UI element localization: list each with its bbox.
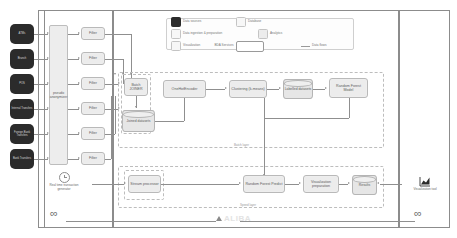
random-forest-model-box[interactable]: Random Forest Model bbox=[329, 78, 368, 98]
arrow-stream-processor bbox=[124, 182, 126, 184]
filter-box-5[interactable]: Filter bbox=[81, 152, 105, 165]
legend-swatch-data-sources bbox=[171, 17, 181, 27]
source-node-pos[interactable]: POS bbox=[10, 74, 34, 94]
filter-label-1: Filter bbox=[89, 56, 97, 60]
connector-joined-up-v bbox=[184, 98, 185, 121]
legend-label-analytics: Analytics bbox=[270, 32, 282, 36]
connector-predict-viz bbox=[285, 184, 299, 185]
connector-source-5 bbox=[34, 159, 48, 160]
filter-box-2[interactable]: Filter bbox=[81, 77, 105, 90]
arrow-visualization-preparation bbox=[299, 182, 301, 184]
source-node-internal-transfers[interactable]: Internal Transfers bbox=[10, 99, 34, 119]
legend: Data sources Database Data ingestion & p… bbox=[166, 18, 354, 50]
connector-f1-h bbox=[105, 59, 123, 60]
source-label-atms: ATMs bbox=[19, 32, 26, 35]
filter-box-0[interactable]: Filter bbox=[81, 27, 105, 40]
connector-f0-h bbox=[105, 34, 131, 35]
legend-label-visualization: Visualization bbox=[183, 44, 200, 48]
arrow-filter-2 bbox=[78, 82, 80, 84]
clustering-label: Clustering (k-means) bbox=[231, 87, 264, 91]
legend-label-database: Database bbox=[248, 20, 261, 24]
connector-f3-h bbox=[105, 109, 119, 110]
source-label-internal-transfers: Internal Transfers bbox=[12, 107, 33, 110]
labelled-datasets-label: Labelled datasets bbox=[285, 87, 312, 91]
batch-joiner-box[interactable]: Batch JOINER bbox=[124, 78, 148, 96]
arrow-results bbox=[348, 182, 350, 184]
filter-box-4[interactable]: Filter bbox=[81, 127, 105, 140]
real-time-generator[interactable]: Real time transaction generator bbox=[48, 172, 80, 212]
filter-box-3[interactable]: Filter bbox=[81, 102, 105, 115]
results-cylinder[interactable]: Results bbox=[352, 175, 377, 195]
legend-item-database: Database bbox=[236, 17, 298, 27]
joined-datasets-cylinder[interactable]: Joined datasets bbox=[122, 110, 155, 132]
connector-model-predict-v bbox=[264, 98, 265, 176]
arrow-results-back bbox=[377, 182, 379, 184]
source-node-bank-transfers[interactable]: Bank Transfers bbox=[10, 149, 34, 169]
labelled-datasets-cylinder[interactable]: Labelled datasets bbox=[283, 79, 313, 99]
connector-source-2 bbox=[34, 84, 48, 85]
connector-labelled-rfmodel bbox=[313, 89, 325, 90]
clock-icon bbox=[59, 172, 70, 183]
arrow-labelled-datasets bbox=[279, 87, 281, 89]
source-node-branch[interactable]: Branch bbox=[10, 49, 34, 69]
generator-infinity-icon: ∞ bbox=[50, 208, 57, 219]
random-forest-model-label: Random Forest Model bbox=[331, 84, 366, 93]
connector-f2-h bbox=[105, 84, 119, 85]
source-label-foreign-bank-transfers: Foreign Bank Transfers bbox=[11, 131, 33, 137]
results-label: Results bbox=[359, 183, 370, 187]
arrow-clustering bbox=[225, 87, 227, 89]
legend-item-ingestion: Data ingestion & preparation bbox=[171, 29, 255, 39]
filter-box-1[interactable]: Filter bbox=[81, 52, 105, 65]
visualization-tool[interactable]: Visualization tool bbox=[406, 176, 444, 206]
connector-stream-predict bbox=[161, 184, 239, 185]
source-node-foreign-bank-transfers[interactable]: Foreign Bank Transfers bbox=[10, 124, 34, 144]
arrow-filter-5 bbox=[78, 157, 80, 159]
legend-swatch-analytics bbox=[258, 29, 268, 39]
visualization-preparation-box[interactable]: Visualization preparation bbox=[303, 175, 339, 193]
stream-processor-box[interactable]: Stream processor bbox=[128, 175, 161, 193]
arrow-filter-1 bbox=[78, 57, 80, 59]
onehotencoder-box[interactable]: OneHotEncoder bbox=[163, 80, 206, 98]
bottom-rail-right bbox=[240, 221, 415, 222]
legend-swatch-visualization bbox=[171, 41, 181, 51]
legend-label-data-flows: Data flows bbox=[312, 44, 326, 48]
arrow-joined-datasets bbox=[135, 106, 137, 108]
random-forest-predict-box[interactable]: Random Forest Predict bbox=[243, 175, 285, 193]
real-time-generator-label: Real time transaction generator bbox=[48, 184, 80, 191]
legend-swatch-ingestion bbox=[171, 29, 181, 39]
diagram-canvas: Data sources Database Data ingestion & p… bbox=[0, 0, 457, 238]
arrow-joiner-top-2 bbox=[114, 73, 116, 75]
legend-item-analytics: Analytics bbox=[258, 29, 320, 39]
stream-processor-label: Stream processor bbox=[130, 182, 158, 186]
legend-label-bda-services: BDA Services bbox=[212, 44, 236, 48]
arrow-random-forest-model bbox=[325, 87, 327, 89]
legend-label-ingestion: Data ingestion & preparation bbox=[183, 32, 222, 36]
clustering-box[interactable]: Clustering (k-means) bbox=[229, 80, 267, 98]
legend-item-data-flows: Data flows bbox=[301, 41, 347, 52]
onehotencoder-label: OneHotEncoder bbox=[172, 87, 198, 91]
source-node-atms[interactable]: ATMs bbox=[10, 24, 34, 44]
batch-layer-label: Batch layer bbox=[232, 143, 251, 147]
connector-source-1 bbox=[34, 59, 48, 60]
legend-swatch-bda-services bbox=[236, 41, 264, 52]
connector-results-tool bbox=[380, 184, 402, 185]
batch-joiner-label: Batch JOINER bbox=[126, 83, 146, 92]
connector-gen-stream bbox=[92, 184, 124, 185]
source-label-pos: POS bbox=[19, 82, 25, 85]
arrow-random-forest-predict bbox=[239, 182, 241, 184]
random-forest-predict-label: Random Forest Predict bbox=[246, 182, 283, 186]
filter-label-4: Filter bbox=[89, 131, 97, 135]
legend-swatch-database bbox=[236, 17, 246, 27]
connector-source-3 bbox=[34, 109, 48, 110]
source-label-bank-transfers: Bank Transfers bbox=[13, 157, 31, 160]
filter-label-3: Filter bbox=[89, 106, 97, 110]
arrow-filter-0 bbox=[78, 32, 80, 34]
bottom-rail-left bbox=[66, 221, 216, 222]
bottom-marker-triangle bbox=[216, 216, 222, 221]
filter-label-0: Filter bbox=[89, 31, 97, 35]
joined-datasets-label: Joined datasets bbox=[127, 119, 151, 123]
connector-model-down-v bbox=[349, 98, 350, 118]
connector-f4-v bbox=[115, 96, 116, 134]
pseudo-anonymizer-box[interactable]: pseudo anonymizer bbox=[49, 25, 68, 165]
visualization-tool-label: Visualization tool bbox=[413, 188, 436, 192]
